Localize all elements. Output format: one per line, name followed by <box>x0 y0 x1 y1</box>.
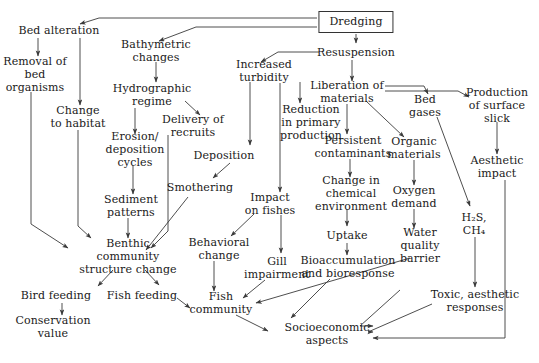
node-conservation-value[interactable]: Conservation value <box>15 314 90 340</box>
node-fish-community[interactable]: Fish community <box>190 290 253 316</box>
node-h2s-ch4[interactable]: H₂S, CH₄ <box>461 211 486 237</box>
node-socioeconomic-aspects[interactable]: Socioeconomic aspects <box>285 321 370 347</box>
edge-dredging-bed-alteration <box>80 18 317 24</box>
node-hydrographic-regime[interactable]: Hydrographic regime <box>113 82 192 108</box>
node-smothering[interactable]: Smothering <box>167 181 234 194</box>
node-organic-materials[interactable]: Organic materials <box>387 135 440 161</box>
node-fish-feeding[interactable]: Fish feeding <box>107 289 177 302</box>
node-oxygen-demand[interactable]: Oxygen demand <box>391 184 436 210</box>
edge-change-habitat-benthic <box>78 130 91 238</box>
dredging-impact-flow-diagram: Dredging Bed alteration Removal of bed o… <box>0 0 539 363</box>
edge-deposition-smothering <box>213 163 230 178</box>
node-persistent-contaminants[interactable]: Persistent contaminants <box>315 134 392 160</box>
node-bioaccumulation-and-bioresponse[interactable]: Bioaccumulation and bioresponse <box>301 254 396 280</box>
node-bed-alteration[interactable]: Bed alteration <box>19 24 100 37</box>
node-toxic-aesthetic-responses[interactable]: Toxic, aesthetic responses <box>431 288 519 314</box>
node-aesthetic-impact[interactable]: Aesthetic impact <box>470 154 523 180</box>
node-change-to-habitat[interactable]: Change to habitat <box>50 104 105 130</box>
edge-impact-behavioral <box>231 214 254 236</box>
node-resuspension[interactable]: Resuspension <box>317 46 395 59</box>
node-production-of-surface-slick[interactable]: Production of surface slick <box>466 86 528 125</box>
node-increased-turbidity[interactable]: Increased turbidity <box>236 58 292 84</box>
edge-fish-community-socioeconomic <box>236 315 268 331</box>
node-dredging[interactable]: Dredging <box>318 11 393 33</box>
node-benthic-community-structure-change[interactable]: Benthic community structure change <box>79 237 176 276</box>
node-gill-impairment[interactable]: Gill impairment <box>244 255 310 281</box>
node-change-in-chemical-environment[interactable]: Change in chemical environment <box>315 174 387 213</box>
node-removal-of-bed-organisms[interactable]: Removal of bed organisms <box>3 55 66 94</box>
node-bed-gases[interactable]: Bed gases <box>409 93 441 119</box>
node-water-quality-barrier[interactable]: Water quality barrier <box>400 226 440 265</box>
node-bird-feeding[interactable]: Bird feeding <box>21 289 91 302</box>
edge-toxic-socioeconomic <box>368 304 432 332</box>
edge-liberation-organic <box>366 101 404 137</box>
node-deposition[interactable]: Deposition <box>194 149 255 162</box>
node-impact-on-fishes[interactable]: Impact on fishes <box>245 191 296 217</box>
node-uptake[interactable]: Uptake <box>326 229 367 242</box>
node-bathymetric-changes[interactable]: Bathymetric changes <box>121 38 191 64</box>
node-delivery-of-recruits[interactable]: Delivery of recruits <box>162 113 224 139</box>
node-erosion-deposition-cycles[interactable]: Erosion/ deposition cycles <box>105 130 164 169</box>
node-liberation-of-materials[interactable]: Liberation of materials <box>310 79 383 105</box>
edge-bioaccumulation-socioeconomic <box>291 279 330 318</box>
node-behavioral-change[interactable]: Behavioral change <box>189 236 250 262</box>
node-sediment-patterns[interactable]: Sediment patterns <box>104 193 158 219</box>
edge-fish-feeding-fish-community <box>177 298 190 308</box>
edge-bed-gases-h2s <box>437 117 470 206</box>
